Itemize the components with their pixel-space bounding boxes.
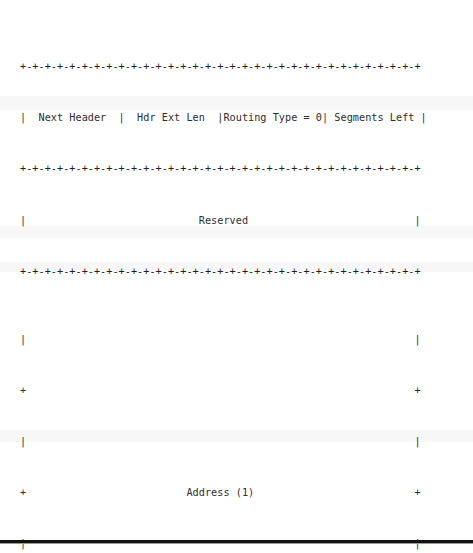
page-footer-rule-shadow — [0, 543, 473, 544]
diagram-separator-top: +-+-+-+-+-+-+-+-+-+-+-+-+-+-+-+-+-+-+-+-… — [0, 58, 473, 75]
diagram-row-header-fields: | Next Header | Hdr Ext Len |Routing Typ… — [0, 109, 473, 126]
diagram-row-reserved: | Reserved | — [0, 212, 473, 229]
diagram-separator-1: +-+-+-+-+-+-+-+-+-+-+-+-+-+-+-+-+-+-+-+-… — [0, 160, 473, 177]
address-1-line-3: | | — [0, 433, 473, 450]
diagram-separator-2: +-+-+-+-+-+-+-+-+-+-+-+-+-+-+-+-+-+-+-+-… — [0, 263, 473, 280]
packet-format-diagram: +-+-+-+-+-+-+-+-+-+-+-+-+-+-+-+-+-+-+-+-… — [0, 0, 473, 553]
document-page: { "document": { "kind": "ascii-packet-di… — [0, 0, 473, 553]
address-1-line-2: + + — [0, 382, 473, 399]
address-1-label-line: + Address (1) + — [0, 484, 473, 501]
address-1-line-1: | | — [0, 331, 473, 348]
